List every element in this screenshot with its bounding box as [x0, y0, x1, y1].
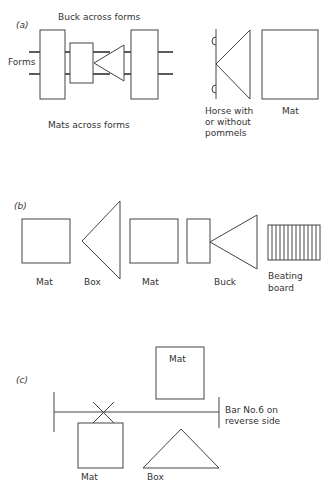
beating-board-label-line1: Beating: [268, 271, 303, 281]
panel-c: (c) Mat Bar No.6 on reverse side Mat Box: [16, 347, 281, 482]
mat-2: [130, 219, 178, 263]
beating-board-label-line2: board: [268, 283, 294, 293]
bar-label-line1: Bar No.6 on: [225, 405, 278, 415]
box: [143, 429, 219, 468]
pommel-icon: [212, 85, 216, 93]
horse-label-line1: Horse with: [205, 106, 253, 116]
buck-triangle: [210, 215, 257, 269]
box-label: Box: [84, 277, 101, 287]
mat-top-label: Mat: [169, 354, 186, 364]
forms-label: Forms: [8, 57, 36, 67]
horse-label-line3: pommels: [205, 128, 247, 138]
panel-c-label: (c): [16, 375, 28, 385]
box-label: Box: [147, 472, 164, 482]
mats-across-forms-label: Mats across forms: [48, 120, 130, 130]
horse-label-line2: or without: [205, 117, 251, 127]
pommel-icon: [212, 37, 216, 45]
panel-a-label: (a): [16, 20, 29, 30]
gymnastics-apparatus-diagram: (a) Buck across forms Forms Mats across …: [0, 0, 327, 483]
forms-bars: [29, 52, 173, 74]
buck-across-forms: [70, 43, 93, 83]
buck-label: Buck: [214, 277, 237, 287]
mat-bottom: [78, 423, 123, 468]
mat-1-label: Mat: [36, 277, 53, 287]
beating-board: [268, 225, 320, 260]
buck-triangle: [94, 45, 124, 81]
buck-across-forms-label: Buck across forms: [58, 12, 141, 22]
panel-b: (b) Mat Box Mat Buck Beating board: [14, 201, 320, 293]
panel-b-label: (b): [14, 201, 27, 211]
mat-2-label: Mat: [142, 277, 159, 287]
bar-label-line2: reverse side: [225, 416, 281, 426]
mat-1: [22, 219, 70, 263]
mat-label: Mat: [282, 106, 299, 116]
mat-bottom-label: Mat: [81, 472, 98, 482]
buck: [187, 219, 210, 263]
mat-across-forms-right: [131, 30, 158, 99]
bar-no6: [54, 392, 219, 432]
horse: [212, 29, 250, 99]
box: [82, 201, 120, 279]
panel-a: (a) Buck across forms Forms Mats across …: [8, 12, 318, 138]
mat-across-forms-left: [40, 30, 65, 99]
mat: [262, 30, 318, 99]
